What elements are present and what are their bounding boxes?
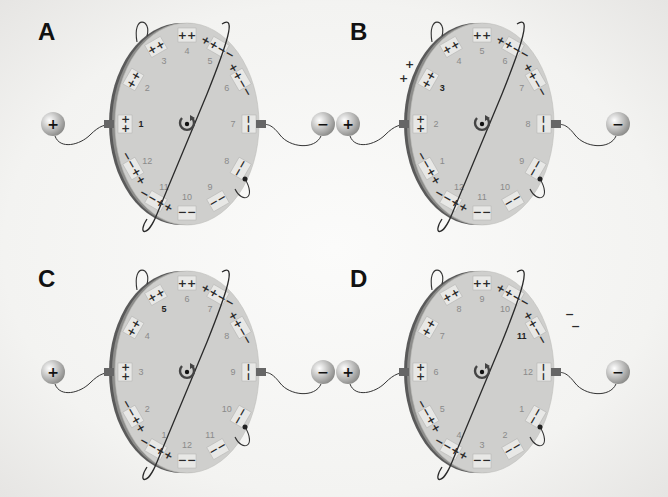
segment-number: 1 bbox=[519, 404, 524, 414]
segment-charges: ++ bbox=[473, 277, 491, 290]
segment-number: 5 bbox=[440, 404, 445, 414]
segment-number: 7 bbox=[440, 331, 445, 341]
positive-terminal-sphere: + bbox=[336, 360, 409, 393]
segment-number: 6 bbox=[433, 367, 438, 377]
segment-number: 10 bbox=[500, 304, 510, 314]
segment-number: 12 bbox=[523, 367, 533, 377]
panel-d: D++6++7++8++9++−−10++−−11−−12−−1−−2−−3++… bbox=[0, 0, 668, 497]
segment-number: 2 bbox=[502, 430, 507, 440]
segment-charges: −− bbox=[537, 363, 550, 381]
segment-number: 9 bbox=[479, 294, 484, 304]
svg-text:−: − bbox=[612, 364, 624, 380]
segment-charges: −− bbox=[473, 454, 491, 467]
segment-charges: ++ bbox=[414, 363, 427, 381]
negative-terminal-sphere: − bbox=[551, 360, 630, 394]
disc-diagram: ++6++7++8++9++−−10++−−11−−12−−1−−2−−3++−… bbox=[0, 0, 668, 497]
segment-number: 11 bbox=[517, 331, 527, 341]
free-charge: − bbox=[571, 320, 580, 333]
segment-number: 8 bbox=[456, 304, 461, 314]
segment-number: 3 bbox=[479, 440, 484, 450]
segment-number: 4 bbox=[456, 430, 461, 440]
svg-text:+: + bbox=[342, 364, 354, 380]
